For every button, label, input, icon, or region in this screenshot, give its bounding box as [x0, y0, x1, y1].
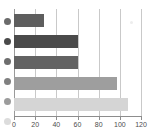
bar-3[interactable]	[14, 56, 78, 69]
legend-marker-4[interactable]	[4, 78, 11, 85]
raster-speck-artifact	[130, 21, 133, 24]
x-tick-120	[141, 116, 142, 120]
bar-fill	[14, 14, 44, 27]
x-tick-label-40: 40	[46, 121, 66, 129]
bar-fill	[14, 98, 128, 111]
x-tick-80	[99, 116, 100, 120]
legend-marker-2[interactable]	[4, 38, 11, 45]
x-tick-label-20: 20	[25, 121, 45, 129]
x-tick-label-120: 120	[131, 121, 151, 129]
legend-marker-3[interactable]	[4, 58, 11, 65]
bar-fill	[14, 35, 78, 48]
x-tick-60	[78, 116, 79, 120]
bar-5[interactable]	[14, 98, 128, 111]
x-tick-label-80: 80	[89, 121, 109, 129]
x-tick-label-60: 60	[68, 121, 88, 129]
x-tick-0	[14, 116, 15, 120]
bar-fill	[14, 56, 78, 69]
bar-chart: 020406080100120	[0, 0, 158, 134]
x-tick-40	[56, 116, 57, 120]
legend-marker-6[interactable]	[4, 118, 11, 125]
x-tick-100	[120, 116, 121, 120]
legend-marker-5[interactable]	[4, 98, 11, 105]
x-tick-20	[35, 116, 36, 120]
gridline-120	[141, 9, 142, 116]
x-tick-label-100: 100	[110, 121, 130, 129]
bar-4[interactable]	[14, 77, 117, 90]
bar-fill	[14, 77, 117, 90]
bar-2[interactable]	[14, 35, 78, 48]
legend-marker-1[interactable]	[4, 18, 11, 25]
plot-area	[14, 9, 141, 116]
bar-1[interactable]	[14, 14, 44, 27]
